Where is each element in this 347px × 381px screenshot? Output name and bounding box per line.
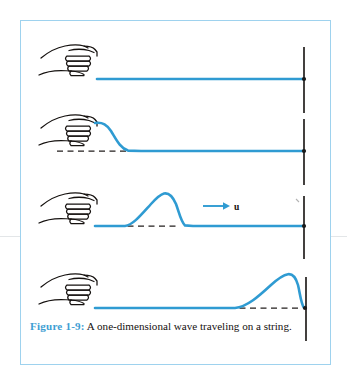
anchor-point [303,306,307,310]
panel-flat-string [39,45,306,113]
hand-icon [39,193,97,224]
anchor-point [302,77,306,81]
figure-caption: Figure 1-9: A one-dimensional wave trave… [30,319,319,335]
string-curve [95,193,304,226]
figure-frame: u [20,20,331,365]
figure-caption-label: Figure 1-9: [30,320,85,332]
panel-pulse-at-hand [39,115,306,185]
anchor-point [302,149,306,153]
anchor-point [302,224,306,228]
hand-icon [39,115,97,146]
velocity-label: u [234,201,240,212]
string-curve [95,274,304,308]
figure-page: u [0,0,347,381]
figure-caption-text: A one-dimensional wave traveling on a st… [87,320,292,332]
panel-pulse-midway: u [39,193,306,259]
string-curve [95,123,304,151]
wave-diagram: u [21,21,329,321]
hand-icon [39,274,97,305]
velocity-arrow-icon [203,202,230,210]
scan-speck [296,199,299,202]
hand-icon [39,45,97,76]
